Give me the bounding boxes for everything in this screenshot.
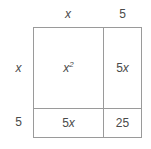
cell-bottom-left-coefficient: 5 (62, 116, 69, 130)
row-label-5: 5 (8, 115, 29, 129)
area-model-grid: x2 5x 5x 25 (33, 27, 142, 138)
cell-top-right: 5x (103, 28, 141, 108)
cell-bottom-right: 25 (103, 108, 141, 137)
cell-bottom-left-variable: x (69, 116, 75, 130)
cell-bottom-right-value: 25 (116, 116, 129, 130)
cell-top-right-variable: x (123, 61, 129, 75)
column-label-5: 5 (103, 7, 142, 21)
cell-top-left-term: x2 (63, 61, 73, 75)
row-label-x: x (8, 61, 29, 75)
area-model-diagram: x 5 x 5 x2 5x 5x 25 (0, 0, 151, 149)
cell-bottom-left: 5x (34, 108, 103, 137)
cell-top-right-term: 5x (116, 61, 129, 75)
cell-top-left-exponent: 2 (69, 60, 73, 69)
cell-bottom-left-term: 5x (62, 116, 75, 130)
cell-top-right-coefficient: 5 (116, 61, 123, 75)
column-label-x: x (33, 7, 103, 21)
cell-top-left: x2 (34, 28, 103, 108)
